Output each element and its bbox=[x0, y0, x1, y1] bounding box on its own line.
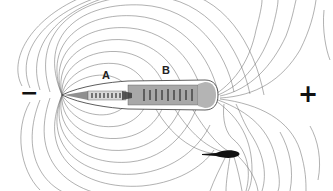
label-b: B bbox=[162, 64, 170, 76]
positive-pole-sign: + bbox=[298, 80, 318, 108]
negative-pole-sign: − bbox=[20, 80, 38, 105]
electric-organ-rear bbox=[128, 85, 198, 105]
electric-field-diagram bbox=[0, 0, 333, 191]
nearby-object-fish bbox=[202, 150, 240, 158]
label-a: A bbox=[102, 69, 110, 81]
electric-fish bbox=[62, 80, 218, 110]
fish-tail-region bbox=[198, 82, 216, 108]
